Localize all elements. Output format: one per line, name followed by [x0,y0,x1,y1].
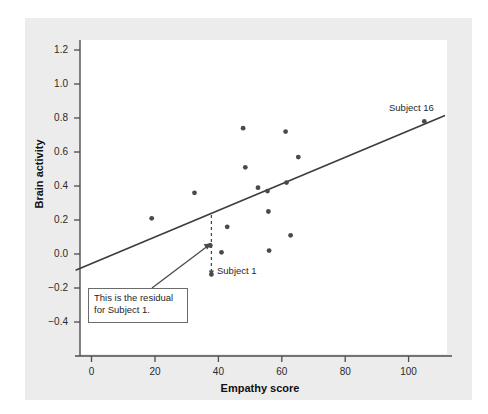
callout-leader-line [152,245,209,288]
chart-canvas [0,0,488,414]
data-point [256,185,261,190]
y-tick-label: 1.0 [40,78,68,89]
x-tick-label: 40 [198,366,238,377]
y-tick-label: −0.4 [36,316,68,327]
data-point [267,248,272,253]
data-point [265,189,270,194]
data-point [149,216,154,221]
data-point [241,126,246,131]
y-axis-ticks [74,50,80,322]
regression-line [76,116,445,271]
data-point [266,209,271,214]
scatter-plot-figure: 1.2 1.0 0.8 0.6 0.4 0.2 0.0 −0.2 −0.4 0 … [0,0,488,414]
x-tick-label: 80 [325,366,365,377]
annotation-line-1: This is the residual [94,292,182,304]
data-point-subject-16 [422,119,427,124]
x-axis-ticks [92,356,409,362]
x-axis-title: Empathy score [180,382,340,394]
data-point [296,155,301,160]
y-tick-label: 0.0 [40,248,68,259]
data-point [284,180,289,185]
data-point [192,190,197,195]
y-tick-label: −0.2 [36,282,68,293]
y-tick-label: 1.2 [40,44,68,55]
x-tick-label: 100 [389,366,429,377]
data-point [243,165,248,170]
data-point-subject-1 [209,272,214,277]
residual-annotation-box: This is the residual for Subject 1. [88,288,188,323]
annotation-line-2: for Subject 1. [94,304,182,316]
data-points [149,119,426,277]
x-tick-label: 60 [262,366,302,377]
data-point [283,129,288,134]
x-tick-label: 0 [72,366,112,377]
data-point [219,250,224,255]
subject-1-point-label: Subject 1 [217,265,257,276]
data-point [225,224,230,229]
y-axis-title: Brain activity [33,119,45,229]
data-point [288,233,293,238]
x-tick-label: 20 [135,366,175,377]
subject-16-point-label: Subject 16 [389,102,434,113]
data-point [208,243,213,248]
